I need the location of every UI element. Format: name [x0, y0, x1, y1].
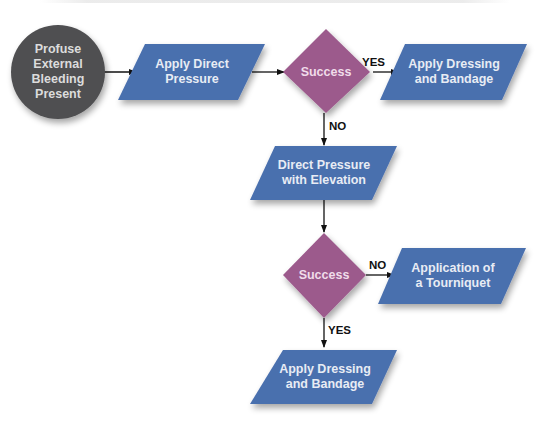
- apply-direct-pressure-label: Apply Direct Pressure: [130, 48, 254, 96]
- start-node-label: Profuse External Bleeding Present: [14, 34, 102, 110]
- direct-pressure-elevation-label: Direct Pressure with Elevation: [262, 150, 386, 196]
- decision-2-label: Success: [286, 263, 362, 287]
- edge-label-yes-2: YES: [328, 324, 351, 336]
- tourniquet-label: Application of a Tourniquet: [390, 252, 516, 300]
- edge-label-no-1: NO: [329, 120, 346, 132]
- flowchart: Profuse External Bleeding Present Apply …: [0, 0, 547, 426]
- apply-dressing-2-label: Apply Dressing and Bandage: [264, 354, 386, 400]
- decision-1-label: Success: [288, 60, 364, 84]
- apply-dressing-1-label: Apply Dressing and Bandage: [392, 48, 516, 96]
- edge-label-yes-1: YES: [362, 56, 385, 68]
- edge-label-no-2: NO: [369, 259, 386, 271]
- edges: [103, 72, 398, 347]
